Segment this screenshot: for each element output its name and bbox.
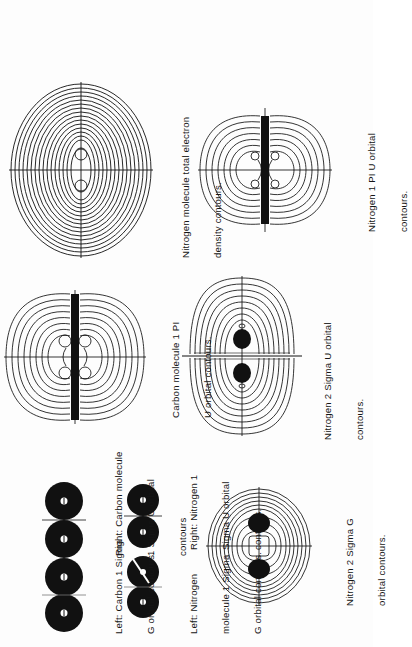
caption-n2-1piu: Nitrogen 1 PI U orbital contours.	[346, 133, 412, 232]
c2-1piu-plot	[4, 290, 146, 424]
n2-2sigmau-plot	[188, 276, 296, 436]
n2-1piu-plot	[198, 108, 332, 232]
contour-plot-icon	[206, 487, 312, 605]
disk-plot-icon	[42, 482, 86, 558]
c2-1sigmag-plot	[42, 558, 86, 632]
caption-n2-2sigmau: Nitrogen 2 Sigma U orbital contours.	[302, 322, 387, 440]
contour-plot-icon	[4, 290, 146, 424]
caption-n2-2sigmag: Nitrogen 2 Sigma G orbital contours.	[324, 518, 409, 606]
contour-plot-icon	[198, 108, 332, 232]
n2-2sigmag-plot	[206, 487, 312, 605]
disk-plot-icon	[42, 558, 86, 632]
n2-total-density-plot	[8, 82, 154, 258]
contour-plot-icon	[188, 276, 296, 436]
c2-1sigmau-plot	[42, 482, 86, 558]
contour-plot-icon	[8, 82, 154, 258]
